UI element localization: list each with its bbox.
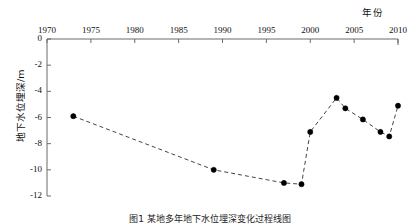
x-tick-label: 2010: [380, 25, 416, 35]
series-line-path: [73, 98, 398, 184]
x-tick-label: 2005: [336, 25, 372, 35]
x-tick-label: 1985: [161, 25, 197, 35]
y-tick-label: -4: [13, 85, 42, 95]
y-tick-label: -2: [13, 59, 42, 69]
data-point-marker: [308, 129, 313, 134]
data-point-marker: [71, 114, 76, 119]
y-tick-label: -10: [13, 164, 42, 174]
x-axis-title: 年份: [362, 5, 383, 19]
y-tick-label: -6: [13, 112, 42, 122]
x-tick-label: 1980: [117, 25, 153, 35]
y-tick-label: -12: [13, 190, 42, 200]
series-marker-group: [71, 95, 401, 187]
data-point-marker: [360, 117, 365, 122]
figure-caption: 图1 某地多年地下水位埋深变化过程线图: [0, 212, 420, 224]
x-tick-label: 2000: [292, 25, 328, 35]
y-tick-label: 0: [13, 33, 42, 43]
axis-lines: [47, 39, 398, 196]
data-point-marker: [334, 95, 339, 100]
x-tick-label: 1995: [248, 25, 284, 35]
x-tick-label: 1975: [73, 25, 109, 35]
y-axis-title: 地下水位埋深/m: [13, 70, 27, 142]
data-point-marker: [281, 180, 286, 185]
y-tick-label: -8: [13, 138, 42, 148]
data-point-marker: [387, 134, 392, 139]
data-point-marker: [299, 182, 304, 187]
data-point-marker: [378, 129, 383, 134]
x-tick-label: 1990: [205, 25, 241, 35]
groundwater-depth-chart-figure: 年份 地下水位埋深/m 1970197519801985199019952000…: [0, 0, 420, 224]
data-point-marker: [343, 106, 348, 111]
data-point-marker: [211, 167, 216, 172]
data-point-marker: [395, 103, 400, 108]
